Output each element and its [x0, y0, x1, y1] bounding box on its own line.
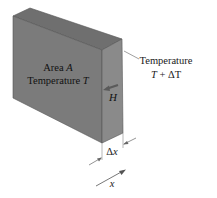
- slab-diagram: Area A Temperature T H Temperature T + Δ…: [0, 0, 217, 198]
- heat-flow-label: H: [108, 91, 118, 103]
- temperature-leader-line: [124, 51, 139, 59]
- thickness-label: Δx: [106, 146, 118, 157]
- temperature-right-label-line2: T + ΔT: [151, 69, 182, 80]
- temperature-t-label: Temperature T: [27, 75, 90, 86]
- x-axis-label: x: [109, 178, 115, 189]
- area-label: Area A: [43, 62, 73, 73]
- temperature-right-label-line1: Temperature: [140, 55, 193, 66]
